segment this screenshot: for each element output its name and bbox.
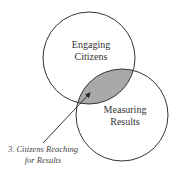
venn-diagram: Engaging Citizens Measuring Results 3. C…: [0, 0, 179, 177]
circle-label-line: Engaging: [72, 39, 110, 50]
callout-arrow-icon: [43, 93, 90, 143]
circle-label-line: Results: [110, 116, 140, 127]
circle-label-line: Citizens: [75, 51, 108, 62]
callout-label-line: 3. Citizens Reaching: [7, 144, 78, 154]
circle-label-line: Measuring: [104, 104, 147, 115]
callout-label-line: for Results: [25, 155, 62, 165]
